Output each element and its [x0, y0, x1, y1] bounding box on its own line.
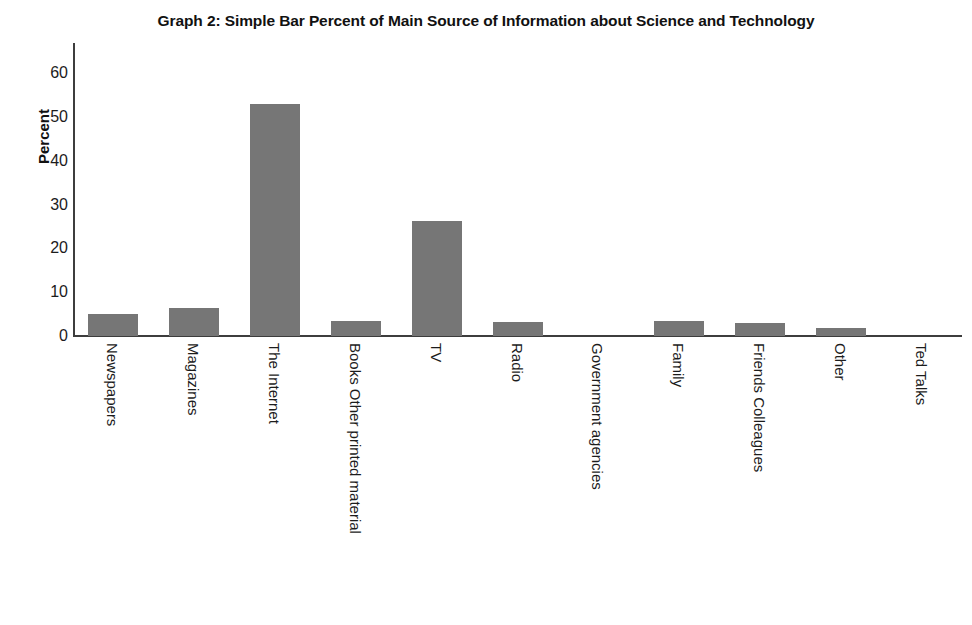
- bar: [250, 104, 300, 336]
- bar: [331, 321, 381, 336]
- x-tick-label: Magazines: [186, 343, 201, 416]
- bar: [654, 321, 704, 336]
- x-tick-label: Other: [833, 343, 848, 381]
- chart-title: Graph 2: Simple Bar Percent of Main Sour…: [0, 12, 972, 30]
- y-tick-label: 10: [34, 284, 68, 300]
- x-tick-label: Government agencies: [590, 343, 605, 490]
- bar: [735, 323, 785, 336]
- x-tick-label: Newspapers: [105, 343, 120, 426]
- x-tick-label: Friends Colleagues: [752, 343, 767, 472]
- y-tick-label: 60: [34, 65, 68, 81]
- x-tick-label: Books Other printed material: [348, 343, 363, 534]
- bar: [493, 322, 543, 336]
- y-tick-label: 20: [34, 240, 68, 256]
- x-tick-label: Radio: [510, 343, 525, 382]
- bar: [412, 221, 462, 336]
- x-tick-label: Ted Talks: [914, 343, 929, 405]
- bar-chart: Graph 2: Simple Bar Percent of Main Sour…: [0, 0, 972, 625]
- y-tick-label: 0: [34, 328, 68, 344]
- x-tick-label: The Internet: [267, 343, 282, 424]
- y-tick-label: 50: [34, 109, 68, 125]
- bar: [169, 308, 219, 336]
- x-tick-label: Family: [671, 343, 686, 387]
- y-axis-tick-labels: 0102030405060: [24, 0, 68, 625]
- plot-area: [73, 43, 963, 336]
- y-tick-label: 40: [34, 153, 68, 169]
- y-tick-label: 30: [34, 197, 68, 213]
- x-tick-label: TV: [429, 343, 444, 362]
- bar: [88, 314, 138, 336]
- bar: [816, 328, 866, 336]
